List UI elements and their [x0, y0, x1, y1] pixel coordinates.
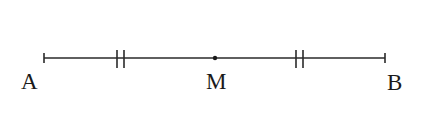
congruence-mark-am [117, 50, 124, 68]
segment-diagram: A M B [0, 0, 434, 116]
congruence-mark-mb [296, 50, 303, 68]
label-a: A [21, 69, 38, 94]
label-b: B [387, 70, 402, 95]
midpoint-m-dot [213, 56, 217, 60]
label-m: M [206, 69, 226, 94]
